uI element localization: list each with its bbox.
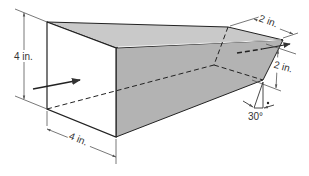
tapered-duct-diagram: 4 in. 4 in. 2 in. 2 in. 30° (0, 0, 309, 176)
inlet-height-label: 4 in. (14, 51, 33, 62)
angle-label: 30° (248, 111, 263, 122)
duct-side-face (116, 40, 283, 137)
point-marker (267, 102, 269, 104)
